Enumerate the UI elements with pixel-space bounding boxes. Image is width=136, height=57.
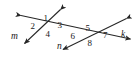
lines-group [21,10,131,50]
angle-label-5: 5 [86,24,91,33]
angle-label-7: 7 [103,31,108,40]
angle-label-6: 6 [71,32,76,41]
line-label-n: n [57,42,62,51]
diagram-canvas [0,0,136,57]
line-label-m: m [11,32,18,41]
angle-label-4: 4 [46,30,51,39]
angle-label-8: 8 [88,39,93,48]
angle-label-2: 2 [31,22,36,31]
angle-label-3: 3 [58,21,63,30]
angle-label-1: 1 [44,14,49,23]
line-k-segment [21,16,131,40]
geometry-diagram: m n k 1 2 3 4 5 6 7 8 [0,0,136,57]
line-label-k: k [121,30,125,39]
